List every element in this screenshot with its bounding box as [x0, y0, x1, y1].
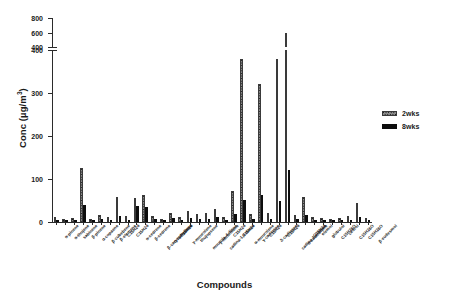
bar-8wks-8	[128, 220, 131, 222]
y-axis-title: Conc (µg/m3)	[16, 63, 28, 173]
bar-8wks-16	[199, 219, 202, 222]
y-axis-upper-line	[52, 18, 53, 47]
bar-8wks-33	[350, 220, 353, 222]
bar-8wks-30	[323, 220, 326, 222]
legend-label-2wks: 2wks	[402, 110, 420, 117]
legend-swatch-8wks-icon	[382, 124, 397, 130]
y-tick-upper-label-600: 600	[31, 29, 43, 36]
bar-8wks-27	[296, 219, 299, 222]
y-tick-300: 300	[48, 93, 52, 94]
x-axis-title-text: Compounds	[197, 279, 252, 290]
y-tick-0: 0	[48, 222, 52, 223]
bar-8wks-22	[252, 219, 255, 222]
y-axis-lower-line	[52, 50, 53, 222]
bar-chart-figure: Conc (µg/m3) 0100200300400400600800 α-pi…	[0, 0, 449, 299]
bar-8wks-4	[92, 220, 95, 222]
legend-item-8wks: 8wks	[382, 123, 420, 130]
legend-label-8wks: 8wks	[402, 123, 420, 130]
bar-8wks-3	[83, 205, 86, 222]
bar-2wks-25	[276, 59, 279, 222]
y-axis-break-serif-0	[48, 47, 57, 48]
bar-8wks-12	[163, 220, 166, 222]
bar-8wks-29	[314, 220, 317, 222]
bar-8wks-1	[65, 220, 68, 222]
bar-8wks-25	[279, 201, 282, 222]
bar-8wks-18	[216, 217, 219, 222]
x-tick-label-25: C15H24	[286, 224, 300, 238]
bar-8wks-23	[261, 195, 264, 222]
bar-8wks-31	[332, 220, 335, 222]
bar-8wks-20	[234, 214, 237, 222]
y-tick-upper-label-800: 800	[31, 15, 43, 22]
y-tick-upper-600: 600	[48, 33, 52, 34]
bar-8wks-10	[145, 207, 148, 222]
bar-8wks-35	[368, 220, 371, 222]
bar-8wks-5	[101, 219, 104, 222]
y-tick-label-300: 300	[31, 90, 43, 97]
plot-area: 0100200300400400600800	[52, 14, 372, 226]
bar-8wks-7	[119, 216, 122, 222]
bar-8wks-0	[56, 220, 59, 222]
x-axis-tick-labels: α-pineneα-thujenesabineneβ-pineneα-copae…	[52, 224, 382, 280]
x-tick-label-13: C15H24	[180, 224, 194, 238]
bar-8wks-21	[243, 200, 246, 222]
y-tick-100: 100	[48, 179, 52, 180]
bar-8wks-6	[110, 220, 113, 222]
bar-8wks-17	[208, 219, 211, 222]
bar-8wks-24	[270, 219, 273, 222]
y-tick-200: 200	[48, 136, 52, 137]
bar-8wks-26	[288, 170, 291, 222]
bar-2wks-26-upper	[285, 33, 288, 48]
bar-8wks-13	[172, 218, 175, 222]
bar-8wks-28	[305, 215, 308, 222]
legend-swatch-2wks-icon	[382, 111, 397, 117]
chart-legend: 2wks 8wks	[382, 110, 420, 136]
y-axis-break-serif-1	[48, 50, 57, 51]
bar-8wks-14	[181, 220, 184, 222]
bar-8wks-32	[341, 220, 344, 222]
x-axis-title: Compounds	[0, 279, 449, 290]
y-axis-title-text: Conc (µg/m3)	[17, 88, 28, 148]
y-tick-upper-label-400: 400	[31, 44, 43, 51]
bar-8wks-34	[359, 217, 362, 222]
bar-2wks-21	[240, 59, 243, 222]
bar-8wks-9	[136, 206, 139, 222]
y-tick-upper-800: 800	[48, 18, 52, 19]
y-tick-label-200: 200	[31, 133, 43, 140]
bar-8wks-2	[74, 220, 77, 222]
legend-item-2wks: 2wks	[382, 110, 420, 117]
bar-8wks-19	[225, 220, 228, 222]
y-tick-label-0: 0	[39, 219, 43, 226]
bar-8wks-11	[154, 219, 157, 222]
bar-8wks-15	[190, 218, 193, 222]
y-tick-label-100: 100	[31, 176, 43, 183]
